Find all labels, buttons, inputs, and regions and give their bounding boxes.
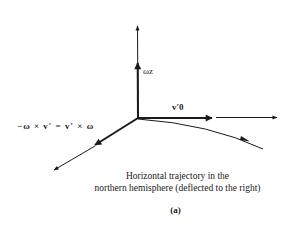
coriolis-vector bbox=[95, 118, 138, 145]
caption-line-2: northern hemisphere (deflected to the ri… bbox=[64, 182, 291, 194]
trajectory-arrowhead-icon bbox=[240, 136, 250, 142]
omega-z-label: ωz bbox=[143, 67, 153, 76]
v0-prime-label: v′0 bbox=[172, 103, 184, 112]
depth-axis bbox=[54, 146, 95, 170]
figure-label: (a) bbox=[0, 206, 291, 215]
figure-caption: Horizontal trajectory in the northern he… bbox=[0, 170, 291, 194]
trajectory-curve bbox=[138, 119, 263, 149]
coriolis-equation-label: −ω × v′ = v′ × ω bbox=[17, 122, 94, 131]
caption-line-1: Horizontal trajectory in the bbox=[64, 170, 291, 182]
